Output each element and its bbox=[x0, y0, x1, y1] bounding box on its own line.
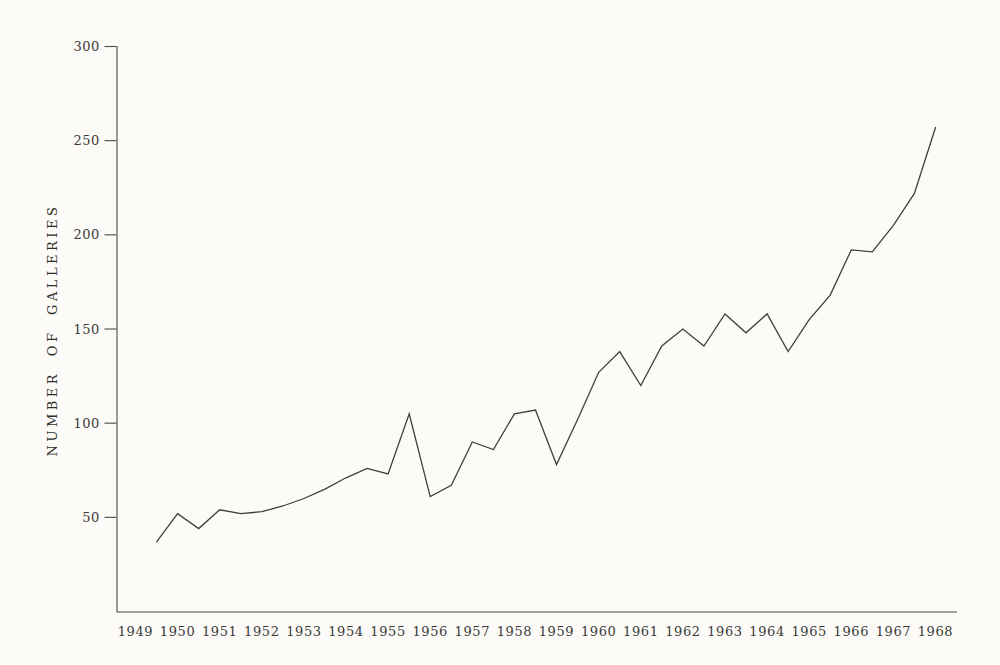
x-tick-label: 1964 bbox=[749, 624, 784, 639]
x-tick-label: 1967 bbox=[876, 624, 911, 639]
x-tick-label: 1955 bbox=[370, 624, 405, 639]
x-tick-label: 1963 bbox=[707, 624, 742, 639]
x-tick-label: 1961 bbox=[623, 624, 658, 639]
y-tick-label: 100 bbox=[73, 416, 100, 431]
x-axis-labels: 1949195019511952195319541955195619571958… bbox=[118, 624, 953, 639]
y-axis-ticks: 50100150200250300 bbox=[73, 39, 116, 525]
x-tick-label: 1962 bbox=[665, 624, 700, 639]
galleries-line-chart: 50100150200250300 1949195019511952195319… bbox=[0, 0, 1000, 665]
y-tick-label: 300 bbox=[73, 39, 100, 54]
axis-spine bbox=[117, 46, 957, 612]
y-tick-label: 50 bbox=[82, 510, 100, 525]
x-tick-label: 1951 bbox=[202, 624, 237, 639]
x-tick-label: 1966 bbox=[834, 624, 869, 639]
x-tick-label: 1958 bbox=[497, 624, 532, 639]
y-tick-label: 150 bbox=[73, 322, 100, 337]
series-line-galleries bbox=[157, 128, 936, 542]
x-tick-label: 1960 bbox=[581, 624, 616, 639]
x-tick-label: 1959 bbox=[539, 624, 574, 639]
y-tick-label: 250 bbox=[73, 133, 100, 148]
x-tick-label: 1956 bbox=[412, 624, 447, 639]
y-tick-label: 200 bbox=[73, 227, 100, 242]
x-tick-label: 1953 bbox=[286, 624, 321, 639]
x-tick-label: 1950 bbox=[160, 624, 195, 639]
x-tick-label: 1952 bbox=[244, 624, 279, 639]
axes bbox=[117, 46, 957, 612]
scanned-book-page: 50100150200250300 1949195019511952195319… bbox=[0, 0, 1000, 665]
x-tick-label: 1949 bbox=[118, 624, 153, 639]
y-axis-title: NUMBER OF GALLERIES bbox=[45, 204, 60, 457]
x-tick-label: 1968 bbox=[918, 624, 953, 639]
x-tick-label: 1957 bbox=[455, 624, 490, 639]
x-tick-label: 1965 bbox=[791, 624, 826, 639]
x-tick-label: 1954 bbox=[328, 624, 363, 639]
